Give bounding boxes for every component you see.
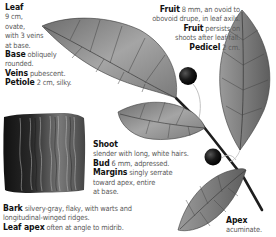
middle-leaf bbox=[118, 102, 205, 140]
leaf-apex-label: Leaf apex bbox=[3, 222, 45, 232]
margins-text-3: at base. bbox=[93, 187, 189, 196]
fruit-description: Fruit 8 mm, an ovoid to obovoid drupe, i… bbox=[152, 5, 240, 52]
margins-text: singly serrate bbox=[127, 168, 172, 177]
bark-swatch bbox=[3, 113, 85, 193]
petiole-text: 2 cm, silky. bbox=[35, 78, 72, 87]
apex-description: Apex acuminate. bbox=[226, 216, 262, 235]
leaf-label: Leaf bbox=[5, 2, 23, 12]
base-label: Base bbox=[5, 49, 26, 59]
apex-label: Apex bbox=[226, 215, 247, 225]
bark-label: Bark bbox=[3, 203, 23, 213]
shoot-description: Shoot slender with long, white hairs. Bu… bbox=[93, 140, 189, 196]
fruit-text-3: persists on bbox=[203, 24, 240, 33]
fruit-text-1: 8 mm, an ovoid to bbox=[180, 5, 240, 14]
leaf-apex-text: often at angle to midrib. bbox=[45, 223, 124, 232]
fruit-label-2: Fruit bbox=[183, 23, 203, 33]
base-text: obliquely bbox=[26, 50, 57, 59]
leaf-veins-count: with 3 veins bbox=[5, 31, 71, 40]
margins-text-2: toward apex, entire bbox=[93, 178, 189, 187]
leaf-shape: ovate, bbox=[5, 22, 71, 31]
bark-description: Bark silvery-gray, flaky, with warts and… bbox=[3, 204, 132, 232]
leaf-description: Leaf 9 cm, ovate, with 3 veins at base. … bbox=[5, 3, 71, 88]
pedicel-label: Pedicel bbox=[189, 42, 220, 52]
leaf-size: 9 cm, bbox=[5, 12, 71, 21]
margins-label: Margins bbox=[93, 167, 127, 177]
bark-text: silvery-gray, flaky, with warts and bbox=[23, 204, 132, 213]
shoot-label: Shoot bbox=[93, 139, 118, 149]
fruit-label: Fruit bbox=[160, 4, 180, 14]
petiole-label: Petiole bbox=[5, 77, 35, 87]
apex-text: acuminate. bbox=[226, 225, 262, 234]
pedicel-text: 2 cm. bbox=[220, 43, 240, 52]
